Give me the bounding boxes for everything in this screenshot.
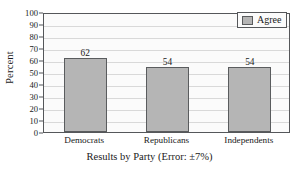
bar-value-label: 54 [220, 57, 280, 67]
bar-value-label: 62 [55, 48, 115, 58]
bar [146, 67, 189, 132]
y-axis-tick-label: 90 [29, 20, 38, 30]
y-axis-tick-label: 60 [29, 56, 38, 66]
bar [228, 67, 271, 132]
bar-chart: Percent 1009080706050403020100 625454 De… [0, 0, 299, 172]
legend-swatch-agree [242, 16, 253, 25]
plot-area: 625454 [43, 13, 290, 133]
y-axis-tick-label: 70 [29, 44, 38, 54]
legend: Agree [237, 12, 287, 28]
bar-group: 625454 [44, 14, 289, 132]
y-axis-tick-label: 100 [25, 8, 38, 18]
bar [64, 58, 107, 132]
y-axis-tick-label: 80 [29, 32, 38, 42]
x-axis-tick-labels: DemocratsRepublicansIndependents [43, 135, 290, 149]
legend-label-agree: Agree [257, 15, 281, 25]
y-axis-tick-label: 10 [29, 116, 38, 126]
y-axis-tick-label: 30 [29, 92, 38, 102]
x-axis-category-label: Independents [199, 135, 299, 145]
y-axis-tick-group: 1009080706050403020100 [0, 13, 43, 133]
y-axis-tick-label: 20 [29, 104, 38, 114]
y-axis-tick-label: 40 [29, 80, 38, 90]
bar-value-label: 54 [138, 57, 198, 67]
y-axis-tick-label: 50 [29, 68, 38, 78]
x-axis-title: Results by Party (Error: ±7%) [0, 151, 299, 162]
